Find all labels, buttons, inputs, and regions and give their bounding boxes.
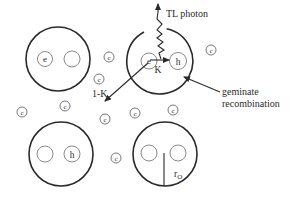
- recombination-diagram: e e h K TL photon 1-K geminate recombina…: [0, 0, 290, 200]
- free-carrier: c: [100, 114, 110, 124]
- free-carrier: c: [130, 108, 140, 118]
- svg-text:c: c: [209, 47, 212, 55]
- cell-bottom-right: rO: [133, 122, 197, 186]
- empty-site: [64, 51, 80, 67]
- one-minus-k-label: 1-K: [92, 88, 108, 99]
- free-carrier: c: [206, 45, 216, 55]
- svg-text:c: c: [133, 110, 136, 118]
- radius-label: rO: [174, 169, 182, 181]
- trap-cluster-boundary: [29, 122, 93, 186]
- hole-label: h: [176, 57, 181, 67]
- free-carrier: c: [111, 153, 121, 163]
- tl-photon-label: TL photon: [166, 8, 208, 19]
- geminate-pointer-arrow: [184, 77, 220, 92]
- free-carrier: c: [17, 107, 27, 117]
- cell-top-right: e h K TL photon 1-K geminate recombinati…: [92, 4, 280, 109]
- svg-text:c: c: [103, 116, 106, 124]
- empty-site: [170, 145, 186, 161]
- free-carrier: c: [168, 105, 178, 115]
- empty-site: [37, 146, 53, 162]
- svg-text:c: c: [171, 107, 174, 115]
- empty-site: [141, 145, 157, 161]
- free-carrier: c: [60, 101, 70, 111]
- free-carrier: c: [104, 52, 114, 62]
- trap-cluster-boundary: [127, 29, 193, 94]
- svg-text:c: c: [97, 76, 100, 84]
- svg-text:c: c: [63, 103, 66, 111]
- escape-arrow: [105, 63, 148, 101]
- hole-label: h: [70, 150, 75, 160]
- cell-bottom-left: h: [29, 122, 93, 186]
- photon-zigzag: [157, 12, 164, 59]
- svg-text:c: c: [107, 54, 110, 62]
- cell-top-left: e: [26, 27, 90, 91]
- geminate-label: geminate: [222, 86, 259, 97]
- electron-label: e: [43, 54, 47, 64]
- trap-cluster-boundary: [133, 122, 197, 186]
- recombination-label: recombination: [222, 98, 280, 109]
- svg-text:c: c: [114, 155, 117, 163]
- k-label: K: [155, 65, 162, 75]
- svg-text:c: c: [20, 109, 23, 117]
- electron-label: e: [147, 56, 151, 66]
- free-carrier: c: [94, 74, 104, 84]
